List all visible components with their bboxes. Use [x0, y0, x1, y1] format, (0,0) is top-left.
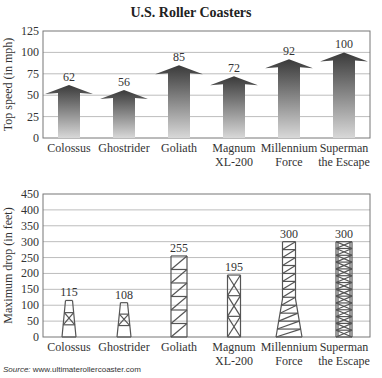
x-category-label: Millennium	[261, 340, 318, 354]
y-tick-label: 0	[33, 330, 39, 344]
top-speed-chart: 0255075100125Top speed (in mph)ColossusG…	[1, 24, 370, 169]
y-tick-label: 250	[21, 251, 39, 265]
y-tick-label: 75	[27, 67, 39, 81]
x-category-label: Ghostrider	[98, 141, 149, 155]
value-label: 108	[115, 288, 133, 302]
value-label: 92	[283, 44, 295, 58]
y-tick-label: 150	[21, 282, 39, 296]
value-label: 115	[60, 285, 78, 299]
y-tick-label: 50	[27, 88, 39, 102]
y-axis-label: Top speed (in mph)	[1, 38, 15, 131]
value-label: 72	[228, 61, 240, 75]
drop-tower-bar	[336, 242, 352, 337]
y-axis-label: Maximum drop (in feet)	[1, 207, 15, 323]
x-category-label: Colossus	[47, 340, 91, 354]
plot-frame	[43, 194, 370, 337]
y-tick-label: 25	[27, 110, 39, 124]
x-category-label: Colossus	[47, 141, 91, 155]
value-label: 255	[170, 241, 188, 255]
value-label: 62	[63, 70, 75, 84]
x-category-label: Superman	[320, 340, 369, 354]
source-label: Source:	[3, 365, 31, 374]
charts-canvas: 0255075100125Top speed (in mph)ColossusG…	[0, 0, 382, 378]
value-label: 56	[118, 75, 130, 89]
y-tick-label: 450	[21, 187, 39, 201]
y-tick-label: 100	[21, 298, 39, 312]
x-category-label: XL-200	[215, 155, 253, 169]
y-tick-label: 0	[33, 131, 39, 145]
speed-arrow-bar	[155, 65, 203, 138]
x-category-label: Force	[275, 354, 302, 368]
value-label: 85	[173, 50, 185, 64]
max-drop-chart: 050100150200250300350400450Maximum drop …	[1, 187, 370, 368]
speed-arrow-bar	[210, 76, 258, 138]
y-tick-label: 125	[21, 24, 39, 38]
drop-tower-bar	[228, 275, 241, 337]
x-category-label: Goliath	[161, 141, 197, 155]
source-url: www.ultimaterollercoaster.com	[33, 365, 141, 374]
y-tick-label: 200	[21, 266, 39, 280]
x-category-label: Magnum	[212, 141, 256, 155]
y-tick-label: 100	[21, 45, 39, 59]
value-label: 300	[335, 227, 353, 241]
x-category-label: Millennium	[261, 141, 318, 155]
value-label: 300	[280, 227, 298, 241]
drop-tower-bar	[62, 300, 76, 337]
source-note: Source: www.ultimaterollercoaster.com	[3, 365, 141, 374]
y-tick-label: 50	[27, 314, 39, 328]
x-category-label: the Escape	[318, 354, 370, 368]
drop-tower-bar	[171, 256, 187, 337]
plot-frame	[43, 31, 370, 138]
y-tick-label: 350	[21, 219, 39, 233]
speed-arrow-bar	[100, 90, 148, 138]
speed-arrow-bar	[45, 85, 93, 138]
x-category-label: Goliath	[161, 340, 197, 354]
x-category-label: the Escape	[318, 155, 370, 169]
x-category-label: Ghostrider	[98, 340, 149, 354]
x-category-label: Force	[275, 155, 302, 169]
value-label: 195	[225, 260, 243, 274]
drop-tower-bar	[117, 303, 131, 337]
value-label: 100	[335, 37, 353, 51]
x-category-label: Superman	[320, 141, 369, 155]
speed-arrow-bar	[265, 59, 313, 138]
x-category-label: XL-200	[215, 354, 253, 368]
y-tick-label: 400	[21, 203, 39, 217]
y-tick-label: 300	[21, 235, 39, 249]
x-category-label: Magnum	[212, 340, 256, 354]
